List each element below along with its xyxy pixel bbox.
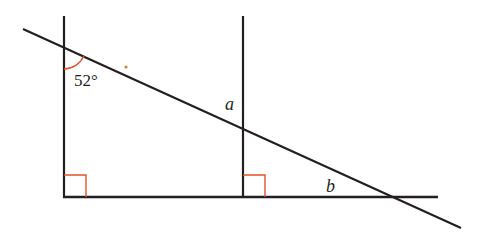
- geometry-diagram: 52° a b: [0, 0, 478, 242]
- angle-label-b: b: [326, 176, 335, 196]
- right-angle-mark-middle: [243, 175, 265, 197]
- stray-dot: [124, 65, 127, 68]
- right-angle-mark-left: [64, 175, 86, 197]
- angle-label-52: 52°: [74, 71, 98, 90]
- angle-arc-52: [64, 56, 84, 69]
- angle-label-a: a: [225, 94, 234, 114]
